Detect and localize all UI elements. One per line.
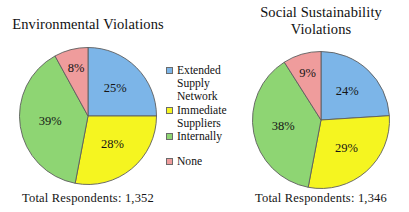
total-respondents-environmental: Total Respondents: 1,352	[0, 191, 176, 206]
slice-label-internally: 38%	[272, 119, 295, 133]
legend-swatch-none	[166, 158, 173, 165]
chart-panel-social: Social Sustainability Violations 24% 29%…	[233, 0, 409, 212]
legend-item-extended-supply-network[interactable]: Extended Supply Network	[166, 64, 238, 104]
pie-social: 24% 29% 38% 9%	[251, 50, 391, 190]
legend-label-extended-supply-network: Extended Supply Network	[177, 64, 221, 103]
slice-label-immediate-suppliers: 28%	[101, 137, 124, 151]
chart-title-line: Violations	[233, 21, 409, 38]
chart-legend: Extended Supply Network Immediate Suppli…	[166, 64, 238, 168]
slice-label-none: 8%	[68, 61, 85, 75]
legend-swatch-extended-supply-network	[166, 67, 173, 74]
chart-panel-environmental: Environmental Violations 25% 28% 39% 8% …	[0, 0, 176, 212]
chart-title-line: Environmental Violations	[0, 16, 176, 33]
chart-title-environmental: Environmental Violations	[0, 16, 176, 33]
legend-item-internally[interactable]: Internally	[166, 130, 238, 143]
pie-chart-figure: Environmental Violations 25% 28% 39% 8% …	[0, 0, 409, 212]
legend-item-immediate-suppliers[interactable]: Immediate Suppliers	[166, 104, 238, 130]
legend-swatch-immediate-suppliers	[166, 107, 173, 114]
slice-label-extended-supply-network: 25%	[104, 81, 127, 95]
chart-title-social: Social Sustainability Violations	[233, 4, 409, 38]
legend-label-internally: Internally	[177, 130, 222, 143]
slice-label-extended-supply-network: 24%	[336, 84, 359, 98]
slice-label-immediate-suppliers: 29%	[335, 141, 358, 155]
legend-swatch-internally	[166, 133, 173, 140]
chart-title-line: Social Sustainability	[233, 4, 409, 21]
pie-environmental: 25% 28% 39% 8%	[18, 46, 158, 186]
pie-svg-environmental: 25% 28% 39% 8%	[18, 46, 158, 186]
slice-label-internally: 39%	[39, 114, 62, 128]
legend-label-immediate-suppliers: Immediate Suppliers	[177, 104, 227, 130]
pie-svg-social: 24% 29% 38% 9%	[251, 50, 391, 190]
legend-label-none: None	[177, 155, 202, 168]
legend-item-none[interactable]: None	[166, 155, 238, 168]
total-respondents-social: Total Respondents: 1,346	[233, 191, 409, 206]
slice-label-none: 9%	[299, 66, 316, 80]
